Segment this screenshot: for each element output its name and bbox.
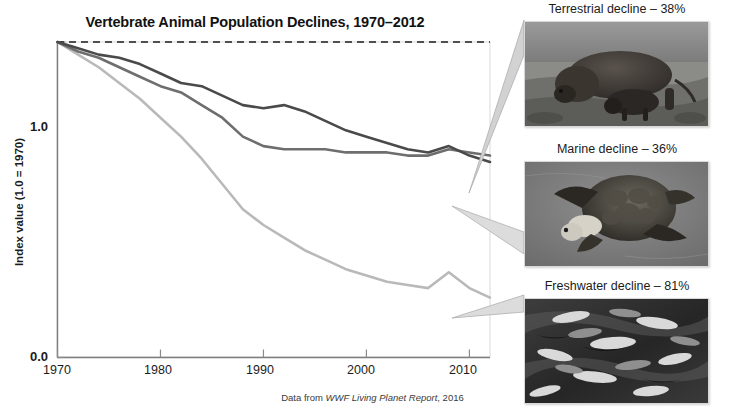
panel-terrestrial: Terrestrial decline – 38% xyxy=(513,2,721,132)
photo-marine-turtle xyxy=(524,161,709,267)
photo-freshwater-fish xyxy=(524,298,709,404)
plot-background xyxy=(57,42,490,357)
panel-caption-marine: Marine decline – 36% xyxy=(513,142,721,156)
plot-area xyxy=(0,0,510,415)
panel-freshwater: Freshwater decline – 81% xyxy=(513,279,721,409)
source-suffix: , 2016 xyxy=(437,392,463,403)
panel-caption-terrestrial: Terrestrial decline – 38% xyxy=(513,2,721,16)
chart-panel: Vertebrate Animal Population Declines, 1… xyxy=(0,0,510,415)
sea-turtle-photo-illustration xyxy=(525,162,708,266)
source-prefix: Data from xyxy=(281,392,325,403)
hippo-photo-illustration xyxy=(525,22,708,126)
salmon-school-photo-illustration xyxy=(525,299,708,403)
source-note: Data from WWF Living Planet Report, 2016 xyxy=(240,392,505,403)
photo-terrestrial-hippo xyxy=(524,21,709,127)
panel-marine: Marine decline – 36% xyxy=(513,142,721,272)
figure-vertebrate-population-declines: Vertebrate Animal Population Declines, 1… xyxy=(0,0,738,415)
panel-caption-freshwater: Freshwater decline – 81% xyxy=(513,279,721,293)
source-italic: WWF Living Planet Report xyxy=(326,392,438,403)
